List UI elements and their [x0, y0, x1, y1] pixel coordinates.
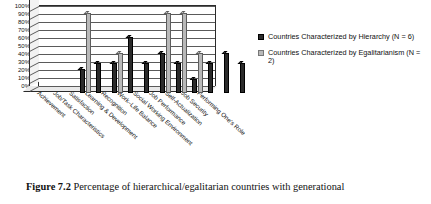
bar — [160, 53, 165, 93]
legend-label: Countries Characterized by Hierarchy (N … — [268, 33, 414, 42]
y-axis: 100%90%80%70%60%50%40%30%20%10%0% — [0, 0, 30, 95]
gridline — [39, 6, 215, 7]
bar-top-face — [238, 61, 244, 64]
bar-group — [206, 12, 222, 93]
bar — [192, 79, 197, 93]
bar — [166, 13, 171, 93]
bar-top-face — [196, 51, 202, 54]
chart-legend: Countries Characterized by Hierarchy (N … — [258, 33, 430, 73]
y-axis-tick-label: 100% — [15, 3, 30, 9]
bar-group — [142, 12, 158, 93]
bar — [144, 63, 149, 93]
bar-series-container — [78, 12, 254, 93]
bar-top-face — [84, 11, 90, 14]
legend-item: Countries Characterized by Egalitarianis… — [258, 49, 430, 66]
bar-top-face — [174, 61, 180, 64]
bar-top-face — [180, 11, 186, 14]
figure-caption-label: Figure 7.2 — [26, 181, 71, 192]
legend-label: Countries Characterized by Egalitarianis… — [268, 49, 423, 66]
bar — [96, 63, 101, 93]
bar-top-face — [190, 77, 196, 80]
bar — [224, 53, 229, 93]
legend-swatch-icon — [258, 34, 264, 40]
bar-group — [94, 12, 110, 93]
bar — [80, 69, 85, 93]
bar-top-face — [116, 51, 122, 54]
bar — [112, 63, 117, 93]
figure-container: 100%90%80%70%60%50%40%30%20%10%0% Achiev… — [0, 0, 431, 204]
bar-group — [222, 12, 238, 93]
bar — [182, 13, 187, 93]
bar-group — [78, 12, 94, 93]
plot-area — [38, 5, 216, 87]
bar-group — [110, 12, 126, 93]
bar-group — [190, 12, 206, 93]
figure-caption: Figure 7.2 Percentage of hierarchical/eg… — [26, 181, 426, 193]
bar — [198, 53, 203, 93]
bar — [176, 63, 181, 93]
figure-caption-text: Percentage of hierarchical/egalitarian c… — [73, 181, 344, 192]
bar — [208, 63, 213, 93]
bar-group — [238, 12, 254, 93]
bar-group — [174, 12, 190, 93]
bar-top-face — [158, 51, 164, 54]
bar-top-face — [142, 61, 148, 64]
bar — [118, 53, 123, 93]
bar — [240, 63, 245, 93]
x-axis-labels: AchievementJob/Task CharacteristicsSatis… — [0, 90, 280, 168]
bar — [128, 37, 133, 93]
bar-top-face — [78, 67, 84, 70]
bar-group — [158, 12, 174, 93]
bar-group — [126, 12, 142, 93]
bar — [86, 13, 91, 93]
bar-top-face — [110, 61, 116, 64]
bar-chart: 100%90%80%70%60%50%40%30%20%10%0% Achiev… — [0, 0, 255, 95]
bar-top-face — [94, 61, 100, 64]
bar-top-face — [164, 11, 170, 14]
legend-item: Countries Characterized by Hierarchy (N … — [258, 33, 430, 42]
bar-top-face — [206, 61, 212, 64]
bar-top-face — [126, 35, 132, 38]
legend-swatch-icon — [258, 50, 264, 56]
bar-top-face — [222, 51, 228, 54]
